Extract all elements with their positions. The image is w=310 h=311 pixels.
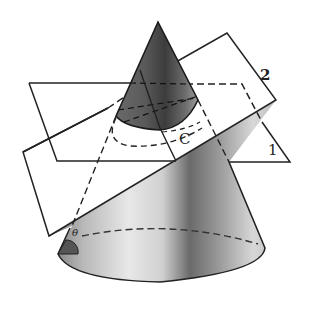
diagram-canvas xyxy=(0,0,310,311)
upper-cone xyxy=(116,22,198,130)
curve-c-label: C xyxy=(179,132,190,147)
plane-2-label: 2 xyxy=(260,68,270,83)
angle-theta-label: θ xyxy=(72,228,78,238)
plane-1-label: 1 xyxy=(268,143,278,158)
double-cone-diagram: 2 1 C θ xyxy=(0,0,310,311)
